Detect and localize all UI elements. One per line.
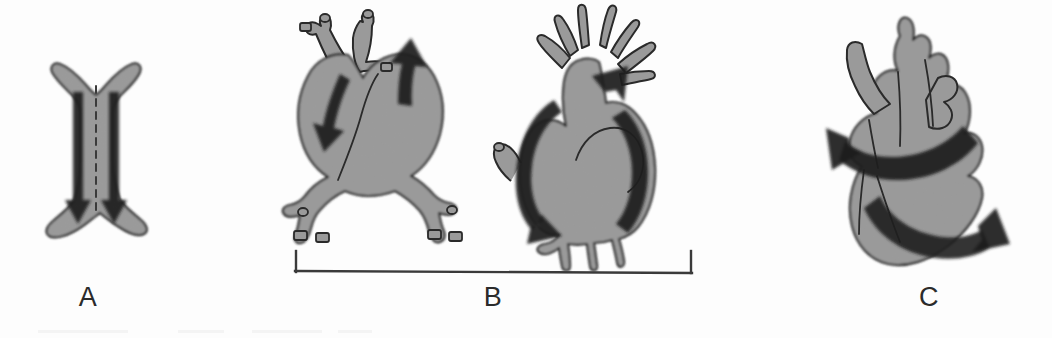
panel-label-a: A <box>58 282 118 313</box>
scan-artifact <box>252 330 322 333</box>
scan-artifact <box>38 330 128 333</box>
panel-b2-vessel-cut-ends <box>494 143 504 151</box>
panel-label-c: C <box>899 282 959 313</box>
panel-label-b: B <box>463 282 523 313</box>
figure-root: A B C <box>0 0 1052 338</box>
cardiac-morphogenesis-figure <box>0 0 1052 338</box>
scan-artifact <box>178 330 224 333</box>
scan-artifact <box>338 330 372 333</box>
